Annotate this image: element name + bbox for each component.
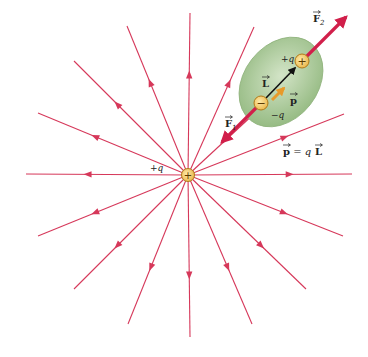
positive-charge-symbol: + xyxy=(297,55,306,68)
field-line-arrow-icon xyxy=(186,71,192,79)
equation-equals-q: = q xyxy=(290,146,311,157)
p-label-text: p xyxy=(290,95,297,106)
field-line xyxy=(188,175,306,289)
dipole-moment-equation: p = q L xyxy=(283,144,323,158)
field-line-arrow-icon xyxy=(186,271,192,279)
field-line xyxy=(74,175,188,289)
field-line xyxy=(188,13,190,175)
p-label: p xyxy=(290,93,298,107)
negative-charge-symbol: − xyxy=(256,97,265,110)
source-charge-symbol: + xyxy=(184,170,192,181)
field-line xyxy=(38,113,188,175)
negative-charge-label: −q xyxy=(271,110,285,120)
positive-charge: + xyxy=(295,54,309,68)
field-line-arrow-icon xyxy=(91,208,100,214)
f2-label: F 2 xyxy=(313,11,325,28)
l-label: L xyxy=(262,76,270,90)
field-line-arrow-icon xyxy=(280,136,289,142)
equation-l: L xyxy=(315,146,322,157)
field-line xyxy=(188,175,343,236)
field-line-arrow-icon xyxy=(286,171,294,177)
field-line-arrow-icon xyxy=(91,135,100,141)
f2-label-subscript: 2 xyxy=(319,19,325,27)
field-line xyxy=(127,26,188,175)
f1-label-subscript: 1 xyxy=(232,124,236,132)
field-line xyxy=(188,175,252,324)
field-line-arrow-icon xyxy=(149,262,155,271)
dipole-field-diagram: + − +q −q L p F 2 F 1 xyxy=(0,0,368,357)
positive-charge-label: +q xyxy=(281,54,295,64)
equation-p: p xyxy=(283,146,290,157)
field-line xyxy=(26,174,188,175)
field-line xyxy=(188,175,190,337)
field-line-arrow-icon xyxy=(224,80,230,89)
dipole: + − +q −q L p F 2 F 1 xyxy=(222,11,346,144)
field-line-arrow-icon xyxy=(279,208,288,214)
field-line xyxy=(128,175,188,324)
field-line-arrow-icon xyxy=(84,171,92,177)
field-line xyxy=(74,61,188,175)
field-line xyxy=(188,174,352,175)
field-line-arrow-icon xyxy=(149,79,155,88)
field-line-arrow-icon xyxy=(223,262,229,271)
source-charge-label: +q xyxy=(150,163,164,173)
f1-label: F 1 xyxy=(225,116,236,133)
negative-charge: − xyxy=(254,96,268,110)
l-label-text: L xyxy=(262,78,269,89)
field-line xyxy=(38,175,188,236)
